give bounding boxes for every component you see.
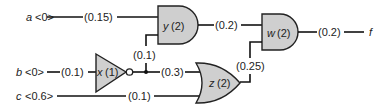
gate-w-name: w bbox=[267, 27, 276, 39]
wire-y-w-delay: (0.2) bbox=[215, 19, 238, 31]
gate-z-name: z bbox=[208, 77, 215, 89]
input-a-name: a bbox=[26, 11, 32, 23]
input-b-value: <0> bbox=[25, 66, 44, 78]
gate-z-delay: (2) bbox=[217, 77, 230, 89]
wire-z-w-1 bbox=[240, 74, 250, 82]
wire-x-y-delay: (0.1) bbox=[133, 49, 156, 61]
wire-z-w-delay: (0.25) bbox=[236, 60, 265, 72]
wire-b-delay: (0.1) bbox=[61, 66, 84, 78]
input-c-name: c bbox=[16, 90, 22, 102]
gate-y-delay: (2) bbox=[171, 20, 184, 32]
wire-z-w-2 bbox=[250, 42, 262, 58]
output-f: f bbox=[369, 26, 373, 38]
gate-x-delay: (1) bbox=[105, 66, 118, 78]
wire-x-y-2 bbox=[146, 35, 158, 46]
input-b-name: b bbox=[16, 66, 22, 78]
input-c-value: <0.6> bbox=[25, 90, 53, 102]
gate-w-delay: (2) bbox=[277, 27, 290, 39]
inverter-bubble-icon bbox=[126, 69, 132, 75]
circuit-diagram: a <0> (0.15) y (2) (0.2) w (2) (0.2) f b… bbox=[0, 0, 384, 108]
gate-x-name: x bbox=[96, 66, 103, 78]
wire-c-delay: (0.1) bbox=[128, 90, 151, 102]
wire-x-z-delay: (0.3) bbox=[161, 66, 184, 78]
wire-a-delay: (0.15) bbox=[84, 11, 113, 23]
wire-w-f-delay: (0.2) bbox=[318, 26, 341, 38]
